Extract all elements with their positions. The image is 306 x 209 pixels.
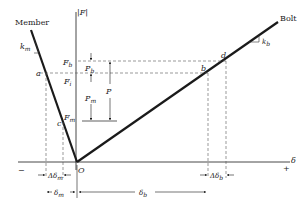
fm-label: Fm	[63, 113, 76, 123]
delta-b-label: δb	[139, 189, 147, 198]
point-c-label: c	[57, 119, 62, 128]
point-d-label: d	[221, 51, 226, 60]
delta-delta-m-label: Δδm	[47, 172, 63, 181]
bolt-member-force-deflection-diagram: Member Bolt |F| δ − + O km kb a c b d Fb…	[0, 0, 306, 209]
minus-sign: −	[18, 166, 25, 175]
pb-label: Pb	[84, 64, 94, 74]
point-b-label: b	[201, 64, 206, 73]
plus-sign: +	[283, 164, 290, 173]
force-axis-label: |F|	[77, 8, 88, 17]
kb-label: kb	[262, 38, 270, 47]
deflection-axis-label: δ	[291, 156, 296, 165]
km-label: km	[20, 42, 31, 52]
delta-m-label: δm	[54, 189, 64, 198]
fb-label: Fb	[62, 58, 73, 68]
bolt-label: Bolt	[280, 14, 297, 23]
point-a-label: a	[36, 69, 41, 78]
delta-delta-b-label: Δδb	[209, 172, 223, 181]
pm-label: Pm	[84, 94, 96, 104]
member-slope-triangle	[34, 39, 39, 53]
fi-label: Fi	[63, 77, 72, 87]
origin-label: O	[78, 166, 85, 175]
p-label: P	[105, 87, 112, 96]
member-label: Member	[15, 18, 49, 27]
